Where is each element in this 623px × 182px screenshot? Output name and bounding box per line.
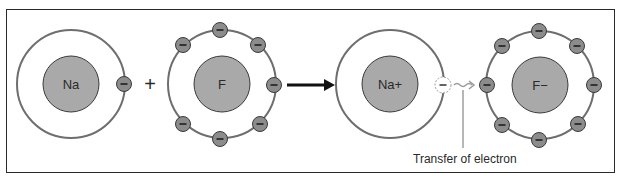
electron-icon	[532, 24, 547, 39]
plus-sign: +	[144, 73, 156, 95]
electron-icon	[495, 118, 510, 133]
sodium-ion: Na+	[336, 30, 451, 138]
electron-icon	[213, 23, 228, 38]
transfer-arrow-icon	[454, 81, 474, 148]
atom-label: F	[218, 77, 226, 92]
electron-icon	[253, 117, 268, 132]
reaction-arrow-icon	[287, 79, 335, 91]
electron-icon	[571, 117, 586, 132]
fluoride-ion: F−	[480, 24, 602, 148]
electron-icon	[251, 38, 266, 53]
electron-icon	[213, 132, 228, 147]
atom-label: F−	[532, 78, 548, 93]
ionic-bond-diagram: Na + F Na+	[0, 0, 623, 182]
electron-icon	[267, 78, 282, 93]
electron-icon	[176, 38, 191, 53]
fluorine-atom: F	[168, 23, 282, 147]
electron-icon	[587, 78, 602, 93]
atom-label: Na	[63, 77, 80, 92]
electron-icon	[495, 39, 510, 54]
electron-icon	[480, 78, 495, 93]
electron-icon	[117, 77, 132, 92]
transferred-electron-icon	[435, 77, 451, 93]
electron-icon	[570, 39, 585, 54]
atom-label: Na+	[378, 77, 402, 92]
transfer-caption: Transfer of electron	[413, 152, 517, 166]
sodium-atom: Na	[17, 30, 132, 138]
electron-icon	[176, 117, 191, 132]
electron-icon	[532, 133, 547, 148]
